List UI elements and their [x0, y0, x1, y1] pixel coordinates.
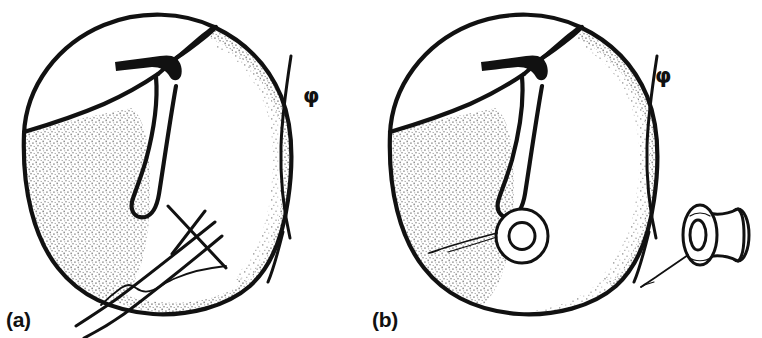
ventilation-tube-in-situ-b	[496, 209, 548, 263]
panel-label-b: (b)	[372, 308, 398, 331]
phi-symbol-b: φ	[655, 64, 671, 88]
grommet-lumen-detail	[690, 220, 706, 250]
figure-svg: φ (a)	[0, 0, 762, 338]
phi-symbol-a: φ	[303, 84, 319, 108]
panel-label-a: (a)	[6, 308, 31, 331]
grommet-lumen-b	[509, 223, 535, 250]
figure-canvas: φ (a)	[0, 0, 762, 338]
